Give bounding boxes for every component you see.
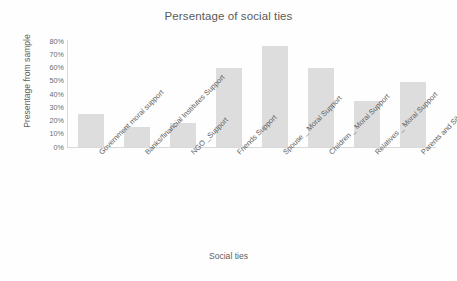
x-tick-label: Relatives _ Moral Support	[373, 150, 379, 156]
x-tick-label: NGO _Support	[189, 150, 195, 156]
y-axis-title: Presentage from sample	[22, 26, 32, 136]
x-tick-label: Parents and Siblings _ Moral…	[419, 150, 425, 156]
bar-chart: Persentage of social ties Presentage fro…	[0, 0, 457, 281]
bar[interactable]	[78, 114, 104, 147]
bar[interactable]	[262, 46, 288, 147]
y-tick-label: 70%	[36, 50, 64, 59]
x-tick-label: Children _ Moral Support	[327, 150, 333, 156]
y-tick-label: 10%	[36, 129, 64, 138]
x-tick-label: Government moral support	[97, 150, 103, 156]
y-axis-tick-labels: 80%70%60%50%40%30%20%10%0%	[36, 36, 64, 152]
y-tick-label: 50%	[36, 76, 64, 85]
y-tick-label: 60%	[36, 63, 64, 72]
y-tick-label: 80%	[36, 37, 64, 46]
x-axis-title: Social ties	[0, 251, 457, 261]
y-tick-label: 40%	[36, 90, 64, 99]
x-tick-label: Banks/financial Institutes Support	[143, 150, 149, 156]
y-tick-label: 30%	[36, 103, 64, 112]
x-tick-label: Friends Support	[235, 150, 241, 156]
bar-slot	[68, 41, 114, 147]
x-tick-label: Spouse _ Moral Support	[281, 150, 287, 156]
x-axis-tick-labels: Government moral supportBanks/financial …	[0, 148, 457, 243]
y-tick-label: 20%	[36, 116, 64, 125]
chart-title: Persentage of social ties	[0, 10, 457, 22]
